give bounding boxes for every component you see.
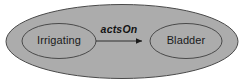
node-irrigating[interactable]: Irrigating (22, 24, 96, 59)
edge-actson-label: actsOn (101, 23, 138, 35)
node-irrigating-label: Irrigating (37, 34, 81, 46)
diagram-svg: Irrigating Bladder actsOn (0, 0, 244, 84)
node-bladder[interactable]: Bladder (150, 24, 222, 59)
diagram-canvas: Irrigating Bladder actsOn (0, 0, 244, 84)
node-bladder-label: Bladder (167, 34, 206, 46)
